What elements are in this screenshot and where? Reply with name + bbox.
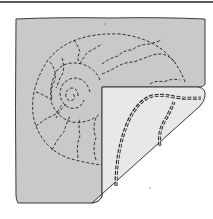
folded-corner-flap [92,87,205,203]
speck [149,187,150,188]
speck [104,23,105,24]
quilt-illustration [0,0,213,219]
